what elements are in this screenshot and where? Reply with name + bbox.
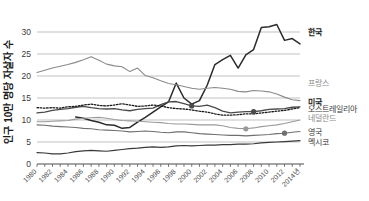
y-axis-tick-labels: 051015202530 (22, 27, 32, 169)
y-tick-label: 20 (22, 71, 32, 81)
y-tick-label: 5 (26, 137, 31, 147)
x-tick-label: 2010 (254, 168, 270, 184)
series-marker-4 (243, 126, 248, 131)
x-tick-label: 1980 (22, 168, 38, 184)
y-tick-label: 30 (22, 27, 32, 37)
x-tick-label: 1988 (84, 168, 100, 184)
marker-group (189, 103, 287, 135)
x-tick-label: 1990 (99, 168, 115, 184)
series-marker-2 (189, 103, 194, 108)
x-tick-label: 2014년 (280, 167, 301, 188)
series-line-3 (37, 104, 300, 115)
legend-label-5: 영국 (308, 127, 322, 137)
x-axis-tick-labels: 1980198219841986198819901992199419961998… (22, 167, 301, 188)
x-axis-group (37, 164, 304, 167)
x-tick-label: 2006 (223, 168, 239, 184)
series-line-1 (37, 57, 300, 101)
legend-label-0: 한국 (308, 27, 323, 37)
x-tick-label: 1994 (130, 168, 146, 184)
series-group (37, 25, 300, 154)
series-line-6 (37, 141, 300, 154)
x-tick-label: 1986 (68, 168, 84, 184)
x-tick-label: 1998 (161, 168, 177, 184)
x-tick-label: 1992 (115, 168, 131, 184)
legend-label-4: 네덜란드 (308, 113, 336, 123)
x-tick-label: 2002 (192, 168, 208, 184)
legend-label-1: 프랑스 (308, 78, 329, 88)
x-tick-label: 1996 (146, 168, 162, 184)
x-tick-label: 1982 (37, 168, 53, 184)
y-tick-label: 10 (22, 115, 32, 125)
y-tick-label: 0 (26, 159, 31, 169)
suicide-rate-line-chart: 051015202530 198019821984198619881990199… (0, 0, 369, 201)
gridlines-group (37, 32, 300, 142)
x-tick-label: 1984 (53, 168, 69, 184)
chart-canvas: 051015202530 198019821984198619881990199… (0, 0, 369, 201)
x-tick-label: 2000 (176, 168, 192, 184)
x-tick-label: 2008 (238, 168, 254, 184)
y-tick-label: 25 (22, 49, 32, 59)
series-marker-5 (282, 131, 287, 136)
y-axis-title: 인구 10만 명당 자살자 수 (2, 40, 14, 143)
legend-group: 한국프랑스미국오스트레일리아네덜란드영국멕시코 (308, 27, 358, 147)
series-marker-2 (251, 109, 256, 114)
legend-label-6: 멕시코 (308, 137, 329, 147)
y-tick-label: 15 (22, 93, 32, 103)
x-tick-label: 2004 (207, 168, 223, 184)
